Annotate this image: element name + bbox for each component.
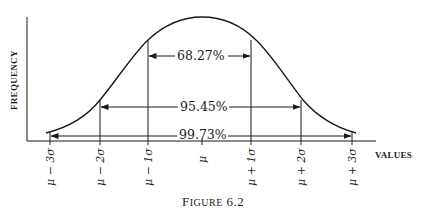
bell-curve: [46, 17, 356, 133]
tick-minus-1sigma: μ − 1σ: [142, 148, 155, 186]
tick-plus-2sigma: μ + 2σ: [295, 148, 308, 186]
figure-caption: FIGURE 6.2: [182, 194, 244, 209]
svg-text:μ + 2σ: μ + 2σ: [295, 148, 308, 186]
svg-text:μ: μ: [196, 156, 209, 163]
tick-minus-2sigma: μ − 2σ: [94, 148, 107, 186]
svg-text:μ − 1σ: μ − 1σ: [142, 148, 155, 186]
tick-minus-3sigma: μ − 3σ: [44, 148, 57, 186]
y-axis-label: FREQUENCY: [9, 50, 19, 110]
x-axis-label: VALUES: [375, 150, 412, 160]
label-68-27: 68.27%: [177, 48, 225, 63]
tick-plus-3sigma: μ + 3σ: [346, 148, 359, 186]
tick-plus-1sigma: μ + 1σ: [245, 148, 258, 186]
label-99-73: 99.73%: [179, 127, 227, 142]
tick-mu: μ: [196, 156, 209, 163]
svg-text:μ + 1σ: μ + 1σ: [245, 148, 258, 186]
svg-text:μ + 3σ: μ + 3σ: [346, 148, 359, 186]
svg-text:μ − 2σ: μ − 2σ: [94, 148, 107, 186]
svg-text:μ − 3σ: μ − 3σ: [44, 148, 57, 186]
normal-distribution-figure: FREQUENCY VALUES 68.27% 95.45% 99.73% μ …: [0, 0, 432, 211]
label-95-45: 95.45%: [180, 99, 228, 114]
